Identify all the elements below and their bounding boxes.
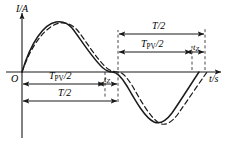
label-tz-upper: tZ bbox=[193, 43, 199, 53]
origin-label: O bbox=[11, 74, 18, 84]
label-tpv-half-lower-tail: /2 bbox=[64, 70, 72, 81]
label-tz-upper-sub: Z bbox=[196, 45, 200, 52]
label-t-half-upper: T/2 bbox=[152, 21, 165, 31]
label-tpv-half-lower: TPV/2 bbox=[49, 71, 72, 83]
label-tz-lower: tZ bbox=[104, 75, 110, 85]
waveform-plot bbox=[0, 0, 230, 142]
axis-lines bbox=[6, 13, 221, 138]
label-tpv-half-upper-tail: /2 bbox=[156, 38, 164, 49]
label-t-half-lower-tail: /2 bbox=[64, 87, 72, 98]
x-axis-label: t/s bbox=[209, 74, 218, 84]
label-tpv-half-upper: TPV/2 bbox=[141, 39, 164, 51]
label-tpv-half-lower-sub: PV bbox=[55, 75, 64, 83]
label-t-half-lower: T/2 bbox=[58, 88, 71, 98]
label-tpv-half-upper-sub: PV bbox=[147, 43, 156, 51]
label-tz-lower-sub: Z bbox=[107, 77, 111, 84]
y-axis-label: I/A bbox=[16, 4, 28, 14]
label-t-half-upper-tail: /2 bbox=[158, 20, 166, 31]
figure-canvas: I/A t/s O TPV/2 tZ T/2 T/2 TPV/2 tZ bbox=[0, 0, 230, 142]
